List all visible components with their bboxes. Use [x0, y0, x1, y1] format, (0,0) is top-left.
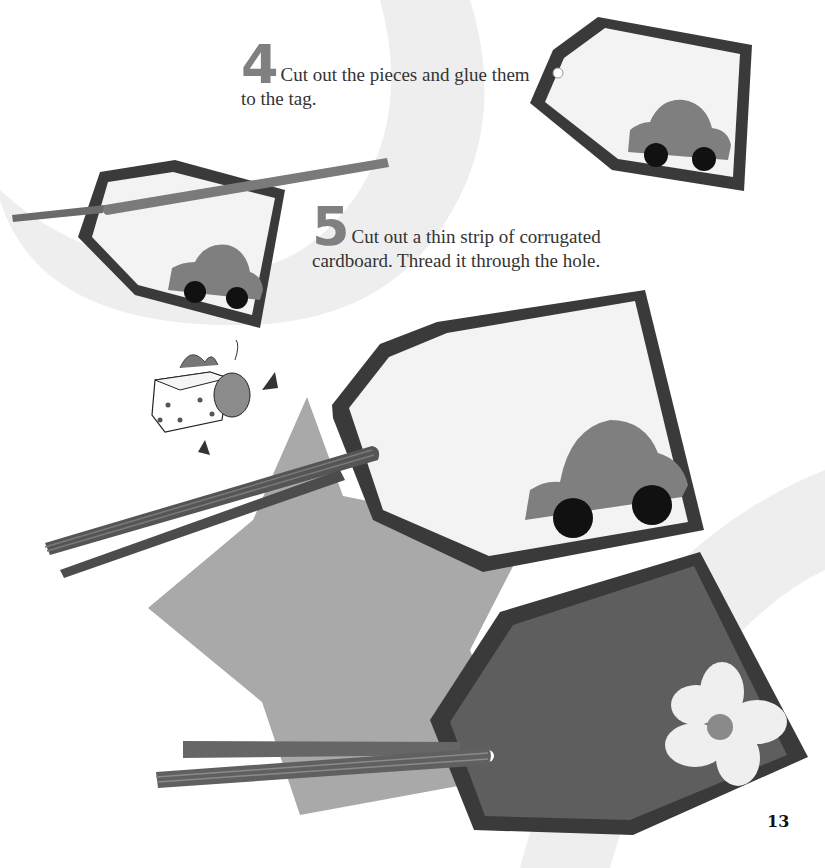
- gift-character-illustration: [152, 340, 278, 455]
- step-4-text: Cut out the pieces and glue them to the …: [241, 64, 530, 109]
- step-5-text: Cut out a thin strip of corrugated cardb…: [312, 226, 601, 271]
- step-4-number: 4: [241, 33, 277, 96]
- step-5-number: 5: [312, 195, 348, 258]
- page-illustration: [0, 0, 825, 868]
- tag-step4: [530, 17, 752, 191]
- step-5-instruction: 5Cut out a thin strip of corrugated card…: [312, 207, 672, 273]
- step-4-instruction: 4Cut out the pieces and glue them to the…: [241, 45, 541, 111]
- page-number: 13: [767, 812, 789, 831]
